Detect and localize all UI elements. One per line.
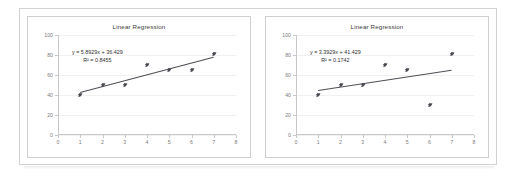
y-tick-label-right: 40 [285, 92, 291, 98]
data-point-left[interactable] [122, 82, 127, 87]
y-tick-right [293, 55, 296, 56]
x-tick-label-left: 0 [57, 139, 60, 145]
y-tick-label-left: 20 [47, 112, 53, 118]
x-tick-right [430, 135, 431, 138]
gridline-right [296, 75, 474, 76]
x-tick-label-right: 4 [384, 139, 387, 145]
page-shadow [24, 166, 494, 169]
x-tick-left [58, 135, 59, 138]
page-root: Linear Regression y = 5.8929x + 36.429 R… [0, 0, 517, 191]
y-tick-label-right: 60 [285, 72, 291, 78]
plot-area-right: y = 3.3929x + 41.429 R² = 0.1742 0204060… [296, 35, 474, 135]
x-tick-label-left: 4 [146, 139, 149, 145]
chart-left[interactable]: Linear Regression y = 5.8929x + 36.429 R… [27, 16, 251, 158]
x-tick-label-right: 2 [339, 139, 342, 145]
data-point-right[interactable] [360, 82, 365, 87]
y-tick-label-left: 40 [47, 92, 53, 98]
chart-right[interactable]: Linear Regression y = 3.3929x + 41.429 R… [265, 16, 489, 158]
plot-area-left: y = 5.8929x + 36.429 R² = 0.8455 0204060… [58, 35, 236, 135]
y-tick-label-right: 20 [285, 112, 291, 118]
data-point-right[interactable] [427, 102, 432, 107]
y-tick-right [293, 35, 296, 36]
data-point-left[interactable] [189, 67, 194, 72]
y-tick-right [293, 95, 296, 96]
x-tick-label-left: 6 [190, 139, 193, 145]
chart-title-left: Linear Regression [28, 23, 250, 30]
x-tick-label-left: 8 [235, 139, 238, 145]
x-tick-label-right: 7 [450, 139, 453, 145]
y-tick-left [55, 35, 58, 36]
x-tick-left [214, 135, 215, 138]
y-tick-right [293, 115, 296, 116]
x-tick-right [452, 135, 453, 138]
data-point-left[interactable] [167, 67, 172, 72]
y-tick-label-left: 80 [47, 52, 53, 58]
r-squared-text-right: R² = 0.1742 [310, 56, 361, 64]
x-tick-left [192, 135, 193, 138]
y-tick-label-right: 100 [282, 32, 291, 38]
x-tick-label-left: 5 [168, 139, 171, 145]
x-tick-label-right: 6 [428, 139, 431, 145]
y-axis-left [58, 35, 59, 135]
data-point-right[interactable] [405, 67, 410, 72]
x-tick-right [385, 135, 386, 138]
y-tick-left [55, 115, 58, 116]
x-tick-right [363, 135, 364, 138]
gridline-right [296, 95, 474, 96]
data-point-right[interactable] [316, 92, 321, 97]
x-tick-label-left: 1 [79, 139, 82, 145]
charts-row: Linear Regression y = 5.8929x + 36.429 R… [19, 8, 497, 165]
x-tick-label-left: 3 [123, 139, 126, 145]
x-tick-left [103, 135, 104, 138]
gridline-right [296, 115, 474, 116]
y-tick-left [55, 95, 58, 96]
x-tick-right [318, 135, 319, 138]
x-tick-label-right: 5 [406, 139, 409, 145]
r-squared-text-left: R² = 0.8455 [72, 56, 123, 64]
y-axis-right [296, 35, 297, 135]
x-tick-label-right: 3 [361, 139, 364, 145]
y-tick-label-left: 60 [47, 72, 53, 78]
data-point-right[interactable] [383, 62, 388, 67]
y-tick-right [293, 75, 296, 76]
chart-title-right: Linear Regression [266, 23, 488, 30]
x-tick-left [169, 135, 170, 138]
gridline-left [58, 95, 236, 96]
data-point-left[interactable] [78, 92, 83, 97]
x-tick-left [80, 135, 81, 138]
x-tick-right [341, 135, 342, 138]
x-tick-label-left: 2 [101, 139, 104, 145]
data-point-left[interactable] [145, 62, 150, 67]
gridline-left [58, 115, 236, 116]
y-tick-left [55, 55, 58, 56]
x-tick-label-left: 7 [212, 139, 215, 145]
y-tick-label-left: 0 [50, 132, 53, 138]
regression-annotation-right: y = 3.3929x + 41.429 R² = 0.1742 [310, 48, 361, 65]
gridline-right [296, 55, 474, 56]
x-tick-left [236, 135, 237, 138]
y-tick-left [55, 75, 58, 76]
y-tick-label-left: 100 [44, 32, 53, 38]
gridline-left [58, 55, 236, 56]
x-tick-right [296, 135, 297, 138]
y-tick-label-right: 0 [288, 132, 291, 138]
x-tick-left [147, 135, 148, 138]
trendline-right [318, 69, 452, 90]
y-tick-label-right: 80 [285, 52, 291, 58]
x-tick-label-right: 1 [317, 139, 320, 145]
x-tick-label-right: 0 [295, 139, 298, 145]
x-tick-left [125, 135, 126, 138]
gridline-right [296, 35, 474, 36]
x-tick-label-right: 8 [473, 139, 476, 145]
regression-annotation-left: y = 5.8929x + 36.429 R² = 0.8455 [72, 48, 123, 65]
x-tick-right [474, 135, 475, 138]
x-tick-right [407, 135, 408, 138]
gridline-left [58, 35, 236, 36]
